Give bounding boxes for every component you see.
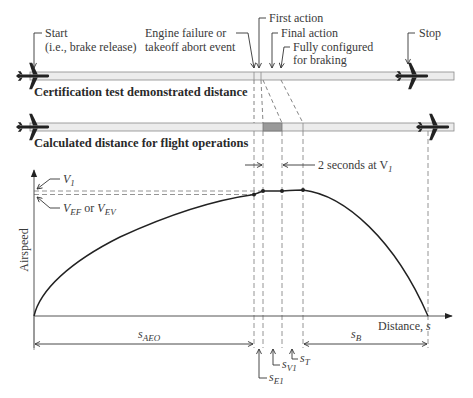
rto-diagram: Certification test demonstrated distance… <box>0 0 473 398</box>
engine-failure-callout-sub: takeoff abort event <box>145 40 236 54</box>
engine-failure-callout: Engine failure or <box>145 26 226 40</box>
two-second-segment <box>263 123 282 131</box>
bar-connectors <box>254 80 303 123</box>
first-action-callout: First action <box>269 11 323 25</box>
s-b-label: sB <box>351 327 362 343</box>
certification-bar-label: Certification test demonstrated distance <box>34 85 248 99</box>
x-axis-label: Distance, s <box>378 319 431 333</box>
s-e1-label: sE1 <box>269 370 284 386</box>
start-callout-sub: (i.e., brake release) <box>45 40 137 54</box>
start-callout: Start <box>45 26 68 40</box>
v1-label: V1 <box>63 172 75 188</box>
airplane-stop-icon <box>395 63 428 90</box>
vef-label: VEF or VEV <box>63 201 117 217</box>
fully-configured-callout: Fully configured <box>293 40 373 54</box>
distance-segments <box>34 316 427 378</box>
stop-callout: Stop <box>419 26 441 40</box>
two-seconds-label: 2 seconds at V1 <box>318 158 393 174</box>
fully-configured-callout-sub: for braking <box>293 53 347 67</box>
operations-bar-label: Calculated distance for flight operation… <box>34 136 248 150</box>
s-t-label: sT <box>300 351 311 367</box>
final-action-callout: Final action <box>281 26 338 40</box>
s-aeo-label: sAEO <box>138 327 161 343</box>
airplane-end-icon-2 <box>416 114 449 141</box>
speed-callouts <box>37 179 60 208</box>
y-axis-label: Airspeed <box>17 228 31 271</box>
